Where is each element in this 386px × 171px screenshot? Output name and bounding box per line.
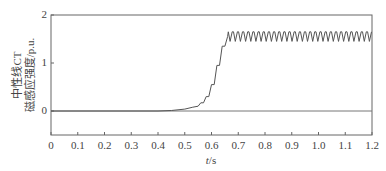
y-axis-label-line2: 磁感应强度/p.u. — [24, 38, 37, 113]
x-tick-label: 0.7 — [231, 139, 245, 151]
y-axis-label-line1: 中性线CT — [11, 38, 24, 113]
flux-density-line — [51, 32, 372, 111]
x-tick-label: 0 — [48, 139, 54, 151]
x-tick-label: 0.5 — [178, 139, 192, 151]
x-tick-label: 1.2 — [365, 139, 379, 151]
x-tick-label: 0.9 — [285, 139, 299, 151]
x-tick-label: 1.1 — [338, 139, 352, 151]
x-tick-label: 0.3 — [124, 139, 138, 151]
y-tick-label: 2 — [35, 8, 47, 20]
x-axis-label: t/s — [206, 154, 216, 166]
x-tick-label: 1.0 — [312, 139, 326, 151]
x-tick-label: 0.1 — [71, 139, 85, 151]
plot-axes — [51, 15, 372, 135]
x-tick-label: 0.8 — [258, 139, 272, 151]
y-axis-label: 中性线CT 磁感应强度/p.u. — [4, 20, 44, 130]
plot-frame — [51, 15, 372, 135]
x-tick-label: 0.2 — [98, 139, 112, 151]
flux-density-chart — [0, 0, 386, 171]
x-tick-label: 0.6 — [205, 139, 219, 151]
x-axis-label-unit: /s — [209, 154, 216, 166]
x-tick-label: 0.4 — [151, 139, 165, 151]
